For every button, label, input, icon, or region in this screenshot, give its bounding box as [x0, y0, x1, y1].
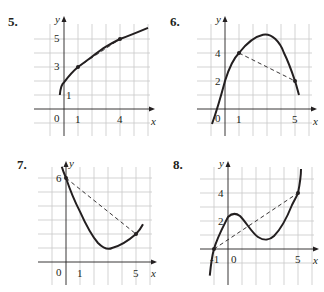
graph-7-y-label: y — [68, 157, 74, 169]
graph-7-ytick-6: 6 — [56, 172, 62, 184]
exercise-graphs-figure: 5. y x 0 1 4 1 3 5 6. — [0, 0, 324, 292]
x-axis-arrow-icon — [311, 107, 317, 112]
graph-7-curve — [62, 167, 143, 249]
graph-7-origin-label: 0 — [56, 266, 62, 278]
graph-6-y-label: y — [215, 13, 221, 25]
y-axis-arrow-icon — [223, 16, 228, 22]
x-axis-arrow-icon — [151, 260, 157, 265]
graph-7: 7. y x 0 1 5 6 — [17, 157, 157, 285]
exercise-number-6: 6. — [170, 14, 180, 29]
x-axis-arrow-icon — [313, 247, 319, 252]
graph-5-curve — [60, 28, 148, 95]
y-axis-arrow-icon — [226, 161, 231, 167]
graph-5-xtick-4: 4 — [117, 113, 123, 125]
graph-5-x-label: x — [150, 115, 156, 127]
exercise-number-8: 8. — [173, 157, 183, 172]
graph-8-point-1 — [212, 247, 216, 251]
graph-5-point-2 — [118, 37, 122, 41]
graph-8-origin-label: 0 — [231, 253, 237, 265]
graph-7-xtick-1: 1 — [77, 267, 83, 279]
exercise-number-7: 7. — [17, 157, 27, 172]
graph-8-xtick-5: 5 — [295, 253, 301, 265]
graph-6-xtick-1: 1 — [236, 113, 242, 125]
graph-5: 5. y x 0 1 4 1 3 5 — [8, 13, 156, 136]
graph-5-ytick-3: 3 — [54, 60, 60, 72]
y-axis-arrow-icon — [62, 16, 67, 22]
graph-6-point-2 — [293, 79, 297, 83]
graph-8-ytick-4: 4 — [218, 187, 224, 199]
graph-6-point-1 — [237, 51, 241, 55]
y-axis-arrow-icon — [64, 161, 69, 167]
graph-7-point-1 — [64, 176, 68, 180]
graph-5-point-1 — [76, 65, 80, 69]
graph-5-grid — [34, 24, 150, 136]
graph-8: 8. y x 0 -1 5 2 4 — [173, 157, 319, 285]
graph-5-y-label: y — [54, 13, 60, 25]
graph-8-point-2 — [296, 191, 300, 195]
graph-6: 6. y x 0 1 5 2 4 — [170, 13, 318, 136]
graph-8-ytick-2: 2 — [218, 215, 224, 227]
x-axis-arrow-icon — [149, 107, 155, 112]
graph-5-ytick-1: 1 — [66, 89, 72, 101]
graph-5-ytick-5: 5 — [54, 32, 60, 44]
graph-6-x-label: x — [312, 115, 318, 127]
graph-7-point-2 — [134, 232, 138, 236]
graph-5-xtick-1: 1 — [75, 113, 81, 125]
graph-6-xtick-5: 5 — [292, 113, 298, 125]
graph-8-y-label: y — [218, 157, 224, 169]
graph-6-ytick-2: 2 — [215, 75, 221, 87]
graph-7-xtick-5: 5 — [133, 267, 139, 279]
graph-6-ytick-4: 4 — [215, 47, 221, 59]
exercise-number-5: 5. — [8, 14, 18, 29]
graph-7-x-label: x — [150, 267, 156, 279]
graph-8-x-label: x — [312, 254, 318, 266]
graph-5-origin-label: 0 — [54, 112, 60, 124]
